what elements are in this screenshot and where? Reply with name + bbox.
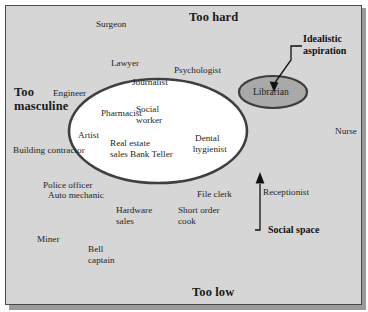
occupation-surgeon: Surgeon <box>96 19 126 30</box>
occupation-engineer: Engineer <box>53 88 86 99</box>
occupation-psychologist: Psychologist <box>174 65 221 76</box>
occupation-lawyer: Lawyer <box>111 58 139 69</box>
occupation-real-estate-sales-line1: Real estate <box>110 138 150 149</box>
occupation-police-officer: Police officer <box>43 180 93 191</box>
diagram-plot-area: Too hard Too low Too masculine Idealisti… <box>5 5 362 305</box>
occupation-auto-mechanic: Auto mechanic <box>48 190 104 201</box>
occupation-librarian: Librarian <box>253 87 289 98</box>
occupation-hardware-sales-line2: sales <box>116 216 134 227</box>
occupation-bell-captain-line1: Bell <box>88 244 103 255</box>
occupation-building-contractor: Building contractor <box>13 145 85 156</box>
occupation-file-clerk: File clerk <box>197 189 232 200</box>
axis-label-bottom: Too low <box>192 286 234 299</box>
occupation-miner: Miner <box>37 234 59 245</box>
occupation-short-order-cook-line1: Short order <box>178 205 220 216</box>
social-space-arrowhead <box>256 172 265 184</box>
occupation-dental-hygienist-line2: hygienist <box>193 144 227 155</box>
occupation-nurse: Nurse <box>335 126 357 137</box>
callout-social-space: Social space <box>268 224 319 236</box>
social-space-leader-line <box>255 184 260 230</box>
occupation-hardware-sales-line1: Hardware <box>116 205 152 216</box>
occupation-artist: Artist <box>78 130 99 141</box>
occupation-social-worker-line2: worker <box>136 115 162 126</box>
occupation-bell-captain-line2: captain <box>88 255 115 266</box>
occupation-real-estate-sales-line2: sales <box>110 149 128 160</box>
occupation-short-order-cook-line2: cook <box>178 216 196 227</box>
occupation-journalist: Journalist <box>132 77 168 88</box>
occupation-receptionist: Receptionist <box>263 187 309 198</box>
idealistic-aspiration-leader-line <box>274 46 302 84</box>
figure-canvas: Too hard Too low Too masculine Idealisti… <box>0 0 368 312</box>
callout-idealistic-aspiration-line1: Idealistic <box>303 33 342 45</box>
callout-idealistic-aspiration-line2: aspiration <box>303 45 346 57</box>
occupation-social-worker-line1: Social <box>136 104 159 115</box>
axis-label-left-line1: Too <box>14 86 34 99</box>
axis-label-left-line2: masculine <box>14 100 68 113</box>
axis-label-top: Too hard <box>189 11 238 24</box>
occupation-dental-hygienist-line1: Dental <box>195 133 220 144</box>
occupation-bank-teller: Bank Teller <box>130 149 173 160</box>
